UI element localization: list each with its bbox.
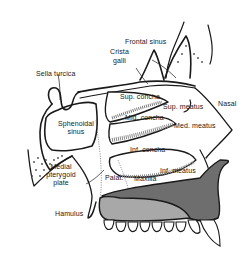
frontal-bone-outer: [166, 22, 184, 78]
label-sphenoidal-sinus-line1: Sphenoidal: [56, 120, 96, 128]
label-medial-pterygoid-line1: Medial: [46, 163, 76, 171]
label-maxilla: Maxilla: [134, 175, 156, 183]
label-inf-concha: Inf. concha: [130, 146, 165, 154]
teeth: [104, 220, 220, 246]
roof-line: [78, 81, 195, 92]
label-sup-meatus: Sup. meatus: [163, 103, 203, 111]
label-sup-concha: Sup. concha: [120, 93, 160, 101]
label-med-meatus: Med. meatus: [174, 122, 216, 130]
frontal-bone-right: [208, 25, 212, 64]
sella-turcica-outline: [49, 88, 80, 110]
label-mid-concha: Mid. concha: [125, 114, 164, 122]
label-crista-galli-line1: Crista: [110, 48, 129, 56]
label-sella-turcica: Sella turcica: [36, 70, 75, 78]
label-sphenoidal-sinus-line2: sinus: [56, 128, 96, 136]
label-medial-pterygoid-line2: pterygoid: [44, 171, 78, 179]
label-palat: Palat.: [105, 174, 124, 182]
label-crista-galli-line2: galli: [113, 57, 126, 65]
label-inf-meatus: Inf. meatus: [160, 167, 196, 175]
label-hamulus: Hamulus: [55, 210, 83, 218]
label-nasal: Nasal: [218, 100, 236, 108]
label-frontal-sinus: Frontal sinus: [125, 38, 166, 46]
label-medial-pterygoid-line3: plate: [46, 179, 76, 187]
